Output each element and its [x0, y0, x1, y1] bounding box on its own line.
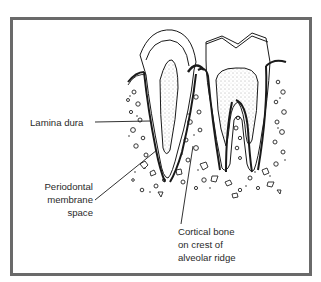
leader-periodontal: [95, 150, 157, 200]
label-cortical-bone: Cortical bone on crest of alveolar ridge: [178, 225, 236, 264]
label-line: space: [38, 206, 93, 219]
label-lamina-dura: Lamina dura: [30, 116, 83, 129]
label-line: alveolar ridge: [178, 251, 236, 264]
leader-cortical: [181, 146, 193, 224]
label-periodontal-membrane-space: Periodontal membrane space: [38, 180, 93, 219]
label-line: Cortical bone: [178, 225, 236, 238]
leader-lamina-dura: [95, 121, 150, 122]
label-line: on crest of: [178, 238, 236, 251]
molar-tooth: [188, 33, 286, 172]
label-line: Periodontal: [38, 180, 93, 193]
label-line: membrane: [38, 193, 93, 206]
teeth-illustration: [0, 0, 321, 282]
